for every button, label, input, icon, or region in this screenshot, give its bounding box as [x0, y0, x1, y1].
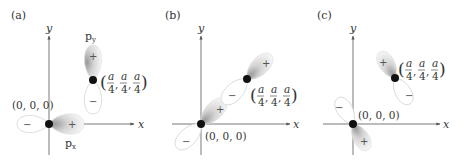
site-neg-sign: −: [405, 90, 413, 101]
svg-text:,: ,: [115, 78, 118, 90]
origin-atom: [197, 120, 205, 128]
svg-text:,: ,: [278, 91, 281, 103]
svg-text:): ): [141, 72, 148, 92]
svg-text:a: a: [121, 70, 127, 82]
origin-neg-sign: −: [335, 102, 343, 113]
site-pos-sign: +: [262, 58, 270, 69]
panel-label-b: (b): [165, 9, 181, 22]
x-axis-label: x: [443, 118, 450, 131]
origin-coord-label: (0, 0, 0): [12, 99, 54, 111]
px-positive-lobe: [49, 114, 84, 134]
svg-text:a: a: [258, 83, 264, 95]
svg-text:a: a: [432, 57, 438, 69]
site-atom: [243, 75, 251, 83]
orbital-diagram: (a) y x − + px + − py (0, 0, 0) ( a4 , a…: [0, 0, 462, 165]
svg-text:(: (: [398, 59, 405, 79]
x-axis-label: x: [138, 118, 145, 131]
panel-label-a: (a): [11, 9, 26, 22]
svg-text:4: 4: [134, 83, 141, 95]
svg-text:,: ,: [426, 65, 429, 77]
svg-text:a: a: [134, 70, 140, 82]
svg-text:): ): [291, 85, 298, 105]
site-atom: [89, 76, 97, 84]
panel-a: (a) y x − + px + − py (0, 0, 0) ( a4 , a…: [11, 9, 148, 155]
site-coord-label: ( a4 , a4 , a4 ): [100, 70, 148, 95]
site-coord-label: ( a4 , a4 , a4 ): [250, 83, 298, 108]
px-pos-sign: +: [68, 119, 76, 130]
origin-pos-sign: +: [360, 136, 368, 147]
site-neg-sign: −: [228, 90, 236, 101]
svg-text:,: ,: [265, 91, 268, 103]
px-label: px: [65, 137, 76, 151]
svg-text:4: 4: [432, 70, 439, 82]
svg-text:4: 4: [406, 70, 413, 82]
svg-text:a: a: [419, 57, 425, 69]
origin-neg-sign: −: [182, 136, 190, 147]
svg-text:a: a: [271, 83, 277, 95]
site-pos-sign: +: [379, 57, 387, 68]
origin-atom: [45, 120, 53, 128]
svg-text:4: 4: [271, 96, 278, 108]
panel-c: (c) y x + − + − (0, 0, 0) ( a4 , a4 ,: [317, 9, 450, 155]
svg-text:(: (: [250, 85, 257, 105]
svg-text:a: a: [406, 57, 412, 69]
px-negative-lobe: [17, 115, 49, 132]
svg-text:4: 4: [258, 96, 265, 108]
y-axis-label: y: [349, 22, 357, 35]
svg-text:,: ,: [128, 78, 131, 90]
svg-text:4: 4: [419, 70, 426, 82]
py-pos-sign: +: [89, 51, 97, 62]
svg-text:(: (: [100, 72, 107, 92]
origin-atom: [349, 120, 357, 128]
py-neg-sign: −: [89, 96, 97, 107]
px-neg-sign: −: [23, 119, 31, 130]
x-axis-label: x: [293, 118, 300, 131]
origin-coord-label: (0, 0, 0): [358, 109, 400, 121]
svg-text:a: a: [108, 70, 114, 82]
origin-pos-sign: +: [216, 104, 224, 115]
svg-text:4: 4: [284, 96, 291, 108]
site-coord-label: ( a4 , a4 , a4 ): [398, 57, 446, 82]
panel-label-c: (c): [317, 9, 332, 22]
panel-b: (b) y x + − + − (0, 0, 0) ( a4 , a4 , a4…: [165, 9, 300, 155]
y-axis-label: y: [45, 22, 53, 35]
svg-text:): ): [439, 59, 446, 79]
py-label: py: [85, 30, 96, 44]
svg-text:,: ,: [413, 65, 416, 77]
origin-coord-label: (0, 0, 0): [205, 130, 247, 142]
y-axis-label: y: [197, 22, 205, 35]
svg-text:a: a: [284, 83, 290, 95]
svg-text:4: 4: [121, 83, 128, 95]
svg-text:4: 4: [108, 83, 115, 95]
